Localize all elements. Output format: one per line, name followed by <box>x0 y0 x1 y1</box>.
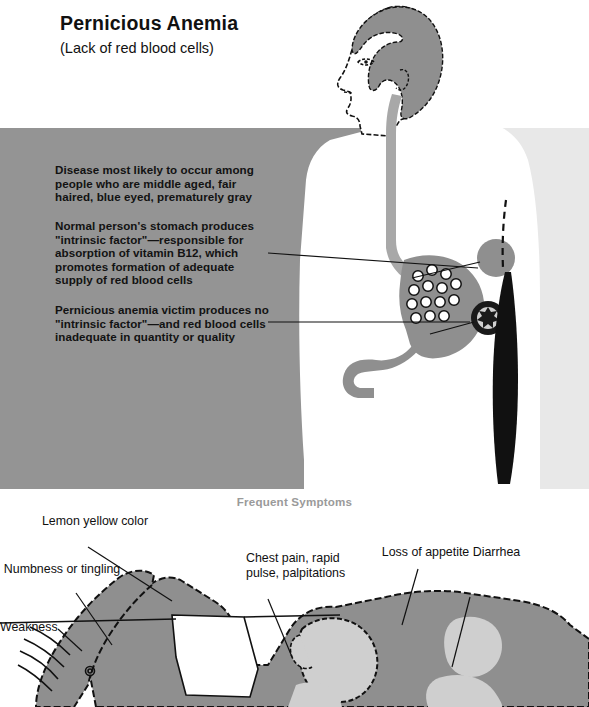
symptom-label-lemon-yellow-color: Lemon yellow color <box>30 514 160 529</box>
lower-symptoms-panel: Frequent Symptoms Lemon yellow color Num… <box>0 489 589 707</box>
symptom-label-chest-pain: Chest pain, rapid pulse, palpitations <box>246 551 356 580</box>
page-title: Pernicious Anemia <box>60 12 238 35</box>
frequent-symptoms-heading: Frequent Symptoms <box>0 495 589 508</box>
paragraph-normal-stomach: Normal person's stomach produces "intrin… <box>55 219 275 287</box>
symptom-label-weakness: Weakness <box>0 620 70 635</box>
normal-cell-magnified <box>477 239 515 277</box>
symptom-label-numbness-or-tingling: Numbness or tingling <box>2 562 122 577</box>
illustration-page: Pernicious Anemia (Lack of red blood cel… <box>0 0 589 707</box>
upper-illustration-panel: Pernicious Anemia (Lack of red blood cel… <box>0 0 589 489</box>
paragraph-risk-factors: Disease most likely to occur among peopl… <box>55 163 275 204</box>
paragraph-anemia-victim: Pernicious anemia victim produces no "in… <box>55 303 275 344</box>
symptom-label-loss-of-appetite: Loss of appetite Diarrhea <box>376 545 526 560</box>
page-subtitle: (Lack of red blood cells) <box>60 40 214 56</box>
